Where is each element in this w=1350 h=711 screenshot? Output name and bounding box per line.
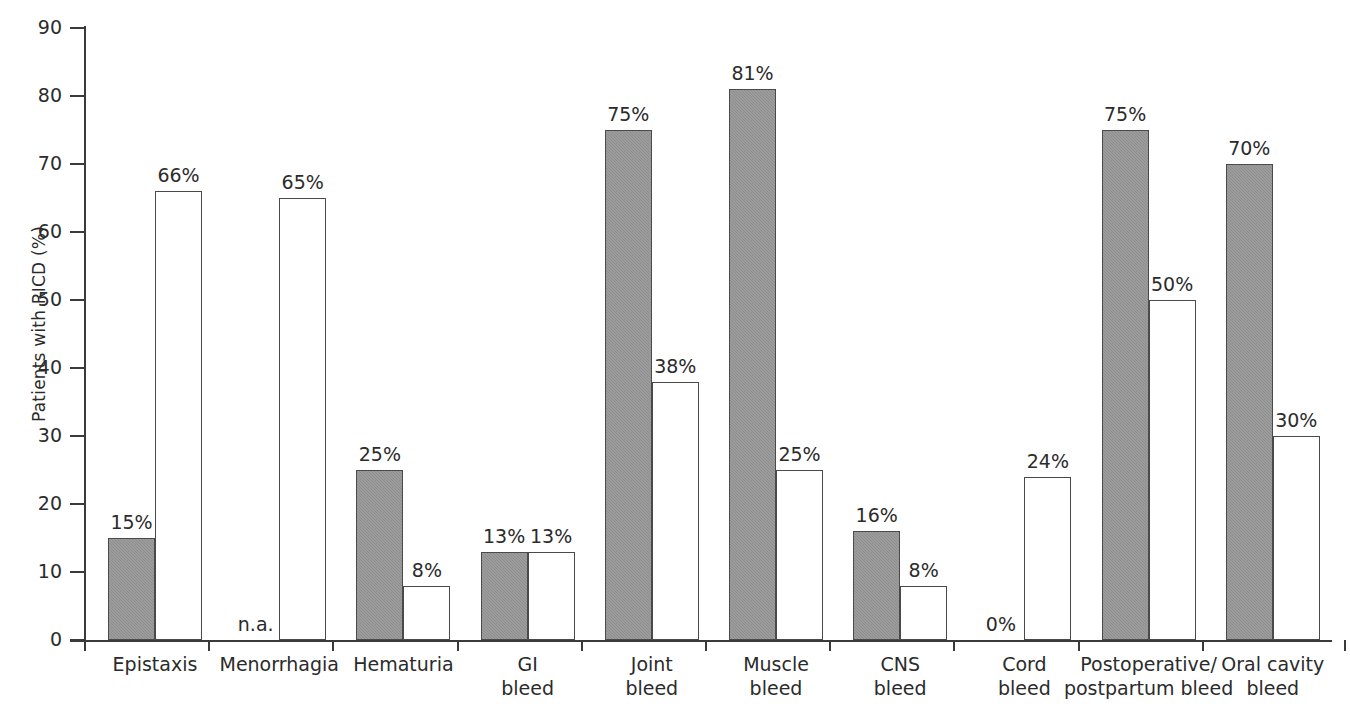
y-axis-tick (70, 163, 84, 165)
bar-filled (605, 130, 652, 640)
y-axis-tick-label: 90 (16, 18, 62, 37)
y-axis-tick-label: 30 (16, 426, 62, 445)
bar-no-data-label: n.a. (222, 615, 289, 634)
x-axis-line (70, 640, 1332, 642)
bar-filled (729, 89, 776, 640)
bar-value-label: 75% (595, 105, 662, 124)
x-axis-tick (581, 640, 583, 651)
x-axis-tick (208, 640, 210, 651)
bar-value-label: 50% (1139, 275, 1206, 294)
y-axis-tick (70, 367, 84, 369)
y-axis-tick (70, 27, 84, 29)
y-axis-tick-label: 0 (16, 630, 62, 649)
bar-open (1149, 300, 1196, 640)
bar-open (776, 470, 823, 640)
y-axis-tick-label: 40 (16, 358, 62, 377)
x-axis-tick (1078, 640, 1080, 651)
bar-value-label: 66% (145, 166, 212, 185)
y-axis-tick (70, 435, 84, 437)
bar-open (279, 198, 326, 640)
bar-value-label: 70% (1216, 139, 1283, 158)
bar-open (900, 586, 947, 640)
y-axis-tick-label: 20 (16, 494, 62, 513)
bar-value-label: 25% (766, 445, 833, 464)
bar-filled (108, 538, 155, 640)
y-axis-tick-label: 50 (16, 290, 62, 309)
bar-filled (853, 531, 900, 640)
x-axis-tick (84, 640, 86, 651)
y-axis-tick-label: 10 (16, 562, 62, 581)
x-axis-tick (1344, 640, 1346, 651)
bar-value-label: 65% (269, 173, 336, 192)
x-axis-tick (332, 640, 334, 651)
y-axis-tick (70, 231, 84, 233)
bar-filled (1102, 130, 1149, 640)
bar-value-label: 15% (98, 513, 165, 532)
x-axis-tick (457, 640, 459, 651)
bar-open (1273, 436, 1320, 640)
x-axis-tick (705, 640, 707, 651)
bar-value-label: 24% (1014, 452, 1081, 471)
bar-value-label: 16% (843, 506, 910, 525)
bar-value-label: 81% (719, 64, 786, 83)
bar-open (528, 552, 575, 640)
bar-value-label: 38% (642, 357, 709, 376)
y-axis-tick (70, 639, 84, 641)
x-axis-tick (829, 640, 831, 651)
bar-filled (1226, 164, 1273, 640)
y-axis-tick-label: 80 (16, 86, 62, 105)
y-axis-tick (70, 571, 84, 573)
bar-filled (481, 552, 528, 640)
bar-value-label: 13% (518, 527, 585, 546)
bar-value-label: 75% (1092, 105, 1159, 124)
bar-value-label: 8% (393, 561, 460, 580)
bar-value-label: 30% (1263, 411, 1330, 430)
bar-value-label: 8% (890, 561, 957, 580)
bar-no-data-label: 0% (967, 615, 1034, 634)
bar-value-label: 25% (346, 445, 413, 464)
y-axis-tick (70, 503, 84, 505)
y-axis-tick (70, 299, 84, 301)
x-axis-tick (953, 640, 955, 651)
y-axis-tick-label: 70 (16, 154, 62, 173)
bar-filled (356, 470, 403, 640)
y-axis-tick (70, 95, 84, 97)
bar-open (155, 191, 202, 640)
bar-open (652, 382, 699, 640)
x-axis-tick (1202, 640, 1204, 651)
x-axis-category-label: Oral cavity bleed (1178, 652, 1350, 700)
y-axis-tick-label: 60 (16, 222, 62, 241)
bar-open (403, 586, 450, 640)
